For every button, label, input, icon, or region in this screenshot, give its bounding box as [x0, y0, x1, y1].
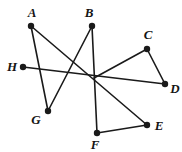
- vertex-point-c: [144, 46, 150, 52]
- segments-group: [23, 26, 165, 133]
- vertex-label-d: D: [170, 82, 179, 95]
- seg-C-D: [147, 49, 165, 84]
- vertex-point-b: [89, 23, 95, 29]
- vertex-point-f: [94, 130, 100, 136]
- vertex-label-e: E: [155, 119, 164, 132]
- vertex-point-g: [45, 108, 51, 114]
- vertex-point-a: [28, 23, 34, 29]
- vertex-label-h: H: [7, 60, 17, 73]
- vertex-label-g: G: [31, 113, 40, 126]
- vertex-label-c: C: [144, 28, 153, 41]
- vertex-point-d: [162, 81, 168, 87]
- vertex-label-a: A: [28, 6, 37, 19]
- seg-C-O: [94, 49, 147, 78]
- seg-B-G: [48, 26, 92, 111]
- geometry-figure: ABCDEFGH: [0, 0, 182, 152]
- vertex-point-h: [20, 64, 26, 70]
- vertex-point-e: [144, 122, 150, 128]
- vertex-label-f: F: [91, 138, 100, 151]
- vertex-label-b: B: [85, 6, 94, 19]
- seg-F-E: [97, 125, 147, 133]
